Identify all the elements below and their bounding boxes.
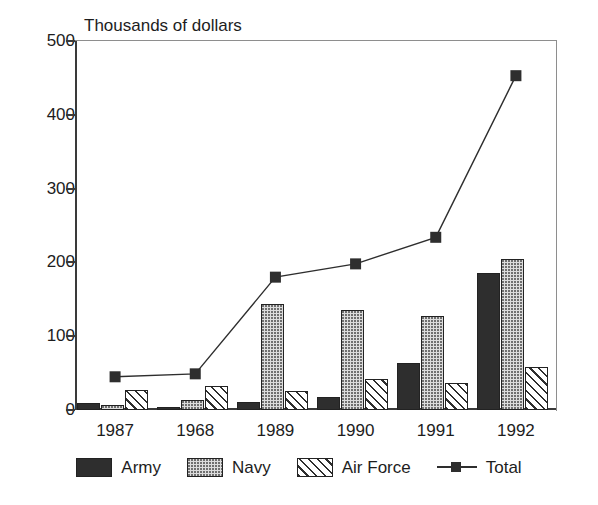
total-line-swatch-icon <box>437 459 477 475</box>
bar-group <box>75 41 155 410</box>
y-tick-mark <box>66 188 75 190</box>
y-axis: 0100200300400500 <box>0 0 75 505</box>
bar-airforce <box>205 386 228 410</box>
bar-group <box>155 41 235 410</box>
y-tick-mark <box>66 261 75 263</box>
x-tick-label: 1992 <box>476 421 556 440</box>
x-tick-label: 1987 <box>75 421 155 440</box>
bar-navy <box>101 405 124 410</box>
bar-airforce <box>285 391 308 410</box>
legend-item-army[interactable]: Army <box>76 458 161 477</box>
bar-army <box>237 402 260 410</box>
bar-navy <box>501 259 524 410</box>
bar-army <box>77 403 100 410</box>
bar-group <box>476 41 556 410</box>
air-force-swatch-icon <box>297 458 333 477</box>
bar-group <box>396 41 476 410</box>
legend-label: Total <box>486 458 522 477</box>
y-tick-mark <box>66 335 75 337</box>
x-tick-label: 1990 <box>316 421 396 440</box>
bar-group <box>235 41 315 410</box>
bar-group <box>316 41 396 410</box>
bar-army <box>477 273 500 410</box>
bar-army <box>317 397 340 410</box>
bar-airforce <box>125 390 148 410</box>
chart-figure: Thousands of dollars 0100200300400500 19… <box>0 0 598 505</box>
y-tick-mark <box>66 114 75 116</box>
bar-airforce <box>445 383 468 410</box>
plot-right-rule <box>556 40 557 411</box>
y-tick-mark <box>66 409 75 411</box>
legend-label: Navy <box>232 458 271 477</box>
bar-airforce <box>365 379 388 410</box>
legend-item-airforce[interactable]: Air Force <box>297 458 411 477</box>
x-tick-label: 1991 <box>396 421 476 440</box>
legend-label: Army <box>121 458 161 477</box>
bar-army <box>157 407 180 410</box>
navy-swatch-icon <box>187 458 223 477</box>
bar-navy <box>261 304 284 410</box>
legend-item-navy[interactable]: Navy <box>187 458 271 477</box>
legend-item-total[interactable]: Total <box>437 458 522 477</box>
x-tick-label: 1989 <box>235 421 315 440</box>
y-tick-mark <box>66 40 75 42</box>
total-swatch-marker <box>451 462 461 472</box>
scan-artifact-bottom <box>0 487 598 505</box>
chart-axis-title: Thousands of dollars <box>84 16 242 36</box>
bar-army <box>397 363 420 410</box>
bar-navy <box>181 400 204 410</box>
bar-navy <box>341 310 364 410</box>
army-swatch-icon <box>76 458 112 477</box>
bar-navy <box>421 316 444 410</box>
legend-label: Air Force <box>342 458 411 477</box>
x-tick-label: 1968 <box>155 421 235 440</box>
bar-airforce <box>525 367 548 410</box>
chart-legend: ArmyNavyAir ForceTotal <box>0 452 598 482</box>
